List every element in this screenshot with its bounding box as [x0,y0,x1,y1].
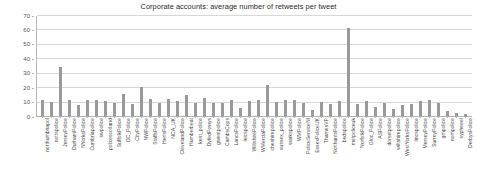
bar[interactable] [50,102,53,117]
bar[interactable] [176,101,179,117]
bar[interactable] [257,100,260,117]
x-axis-label-slot: swpolice [92,118,101,179]
bar-slot [461,16,470,117]
bar[interactable] [59,67,62,118]
bar[interactable] [221,103,224,117]
x-axis-label-slot: EssexPoliceUK [308,118,317,179]
x-axis-label-slot: sussex_police [272,118,281,179]
bar-slot [335,16,344,117]
bar[interactable] [212,103,215,117]
bar[interactable] [338,101,341,117]
bar-slot [38,16,47,117]
x-axis-label-slot: gwentpolice [209,118,218,179]
bar-chart: Corporate accounts: average number of re… [0,0,477,179]
x-axis-label-slot: PoliceServiceNI [299,118,308,179]
x-axis-label-slot: NCA_UK [164,118,173,179]
bar-slot [227,16,236,117]
bar[interactable] [167,99,170,117]
y-axis: 010203040506070 [0,16,34,117]
bar-slot [425,16,434,117]
x-axis-label-slot: ASPolice [371,118,380,179]
x-axis-label-slot: gmpolice [434,118,443,179]
bar[interactable] [185,95,188,117]
bar[interactable] [230,100,233,117]
x-axis-label-slot: SuffolkPolice [110,118,119,179]
bar-slot [299,16,308,117]
x-axis-label-slot: StaffsPolice [146,118,155,179]
bar[interactable] [41,100,44,117]
bar[interactable] [86,100,89,117]
x-axis-label-slot: cheshirepolice [263,118,272,179]
y-axis-tick-label: 10 [23,99,30,105]
bar-slot [281,16,290,117]
bar-slot [83,16,92,117]
bar-slot [101,16,110,117]
y-axis-tick-label: 50 [23,41,30,47]
bar-slot [416,16,425,117]
y-axis-tick-label: 0 [27,114,30,120]
bar-slot [317,16,326,117]
bar[interactable] [365,101,368,117]
bar-slot [353,16,362,117]
x-axis-label-slot: HertsPolice [155,118,164,179]
bar-slot [380,16,389,117]
bar-slot [218,16,227,117]
bar[interactable] [284,100,287,117]
x-axis-label-slot: NorthantsPolice [326,118,335,179]
x-axis-label-slot: NYorksPolice [74,118,83,179]
bar[interactable] [194,103,197,117]
bar[interactable] [158,103,161,117]
x-axis-label-slot: dorsetpolice [380,118,389,179]
bar-slot [209,16,218,117]
bar-slot [74,16,83,117]
bar[interactable] [122,94,125,117]
bar[interactable] [383,103,386,117]
bar[interactable] [104,101,107,117]
bars-layer [36,16,472,117]
bar-slot [182,16,191,117]
y-axis-tick-mark [32,16,34,17]
bar-slot [128,16,137,117]
bar-slot [146,16,155,117]
bar-slot [173,16,182,117]
bar[interactable] [68,100,71,117]
bar[interactable] [203,98,206,117]
y-axis-tick-label: 20 [23,85,30,91]
y-axis-tick-mark [32,102,34,103]
bar[interactable] [248,101,251,117]
x-axis-label-slot: policescotland [101,118,110,179]
bar[interactable] [275,102,278,117]
bar[interactable] [95,100,98,117]
bar-slot [434,16,443,117]
bar[interactable] [419,101,422,117]
y-axis-tick-mark [32,30,34,31]
bar[interactable] [113,103,116,117]
x-axis: northumbriapolnottspoliceJerseyPoliceDur… [36,118,472,179]
bar-slot [245,16,254,117]
x-axis-label-slot: MerseyPolice [416,118,425,179]
bar-slot [47,16,56,117]
bar[interactable] [266,85,269,117]
x-axis-label-slot: WMerciaPolice [254,118,263,179]
bar[interactable] [347,28,350,117]
x-axis-label-slot: SurreyPolice [425,118,434,179]
x-axis-label-slot: leicspolice [236,118,245,179]
bar[interactable] [320,102,323,117]
bar[interactable] [293,100,296,117]
bar[interactable] [428,100,431,117]
x-axis-label-slot: warkspolice [281,118,290,179]
bar-slot [452,16,461,117]
x-axis-label-slot: CambsCops [218,118,227,179]
bar-slot [137,16,146,117]
bar[interactable] [149,99,152,117]
bar[interactable] [437,103,440,117]
bar-slot [443,16,452,117]
x-axis-label-slot: nompolice [443,118,452,179]
y-axis-tick-mark [32,59,34,60]
bar[interactable] [302,103,305,117]
bar-slot [110,16,119,117]
bar[interactable] [140,87,143,117]
bar-slot [56,16,65,117]
x-axis-label-slot: DerbysPolice [461,118,470,179]
x-axis-label-slot: nottspolice [47,118,56,179]
